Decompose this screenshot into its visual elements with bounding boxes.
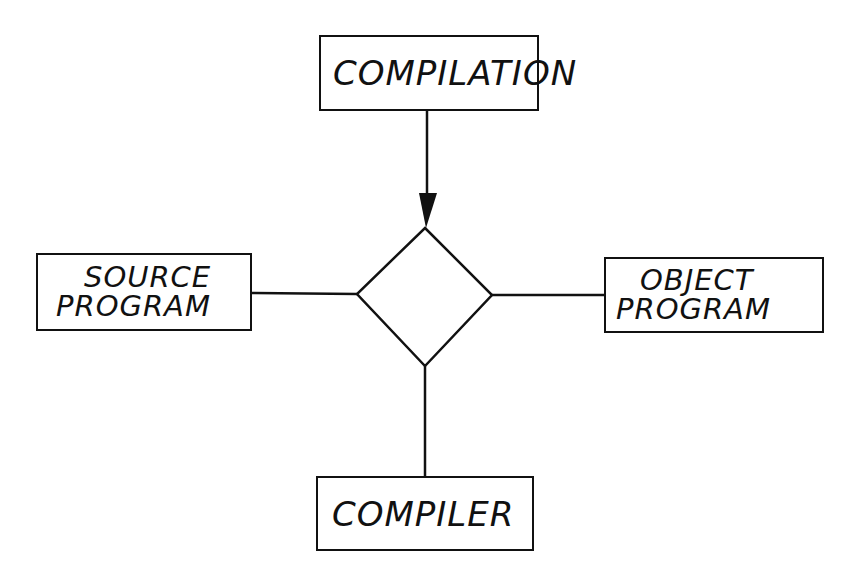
entity-label: COMPILER: [332, 497, 514, 531]
entity-label-line-1: OBJECT: [616, 266, 754, 295]
entity-object-program: OBJECT PROGRAM: [604, 257, 824, 333]
entity-compilation: COMPILATION: [319, 35, 539, 111]
entity-label-line-2: PROGRAM: [56, 292, 211, 321]
relationship-diamond: [357, 228, 492, 366]
entity-label-line-2: PROGRAM: [616, 295, 771, 324]
entity-compiler: COMPILER: [316, 476, 534, 551]
entity-label: COMPILATION: [333, 56, 577, 90]
entity-source-program: SOURCE PROGRAM: [36, 253, 252, 331]
arrowhead-icon: [419, 193, 437, 228]
er-diagram-canvas: COMPILATION SOURCE PROGRAM OBJECT PROGRA…: [0, 0, 853, 578]
connector-source-to-relationship: [252, 293, 357, 294]
entity-label-line-1: SOURCE: [56, 263, 211, 292]
